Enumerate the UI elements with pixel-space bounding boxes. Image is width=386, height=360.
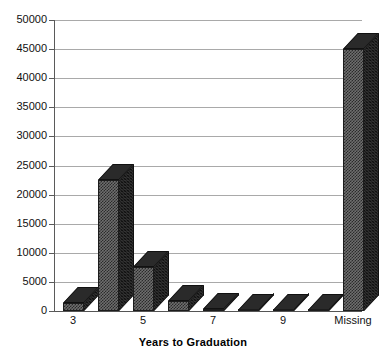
y-tick-mark: [49, 107, 55, 108]
x-axis-labels: 3579Missing: [55, 314, 386, 330]
bar-front-face: [238, 309, 259, 311]
y-tick-label: 15000: [0, 218, 47, 229]
y-tick-label: 10000: [0, 247, 47, 258]
x-axis-title: Years to Graduation: [0, 336, 386, 348]
x-tick-label: 3: [49, 314, 97, 327]
x-tick-label: 7: [189, 314, 237, 327]
bar: [273, 294, 309, 311]
bar-front-face: [98, 180, 119, 311]
y-tick-label: 50000: [0, 14, 47, 25]
y-tick-label: 0: [0, 305, 47, 316]
y-axis-labels: 0500010000150002000025000300003500040000…: [0, 0, 47, 360]
bar: [203, 293, 239, 311]
bar: [238, 294, 274, 311]
y-tick-mark: [49, 78, 55, 79]
bar-front-face: [343, 49, 364, 311]
y-tick-mark: [49, 136, 55, 137]
bar-front-face: [63, 303, 84, 311]
bar: [308, 294, 344, 311]
bar-front-face: [133, 267, 154, 311]
y-tick-label: 30000: [0, 130, 47, 141]
bar: [133, 251, 169, 311]
bar: [168, 285, 204, 311]
bar-top-face: [238, 294, 274, 310]
y-tick-label: 5000: [0, 276, 47, 287]
bar: [343, 33, 379, 311]
y-tick-mark: [49, 166, 55, 167]
y-tick-mark: [49, 20, 55, 21]
bar-front-face: [308, 309, 329, 311]
bar-top-face: [308, 294, 344, 310]
y-tick-mark: [49, 282, 55, 283]
bar-top-face: [203, 293, 239, 309]
bars-layer: [55, 0, 386, 360]
y-tick-mark: [49, 49, 55, 50]
y-tick-label: 20000: [0, 189, 47, 200]
y-tick-label: 40000: [0, 72, 47, 83]
y-tick-mark: [49, 195, 55, 196]
x-tick-label: 5: [119, 314, 167, 327]
bar-side-face: [364, 33, 379, 311]
x-tick-label: 9: [259, 314, 307, 327]
bar-chart: 0500010000150002000025000300003500040000…: [0, 0, 386, 360]
bar-side-face: [119, 164, 134, 311]
x-tick-label: Missing: [329, 314, 377, 327]
bar-top-face: [273, 294, 309, 310]
bar-front-face: [168, 301, 189, 311]
y-tick-mark: [49, 224, 55, 225]
y-tick-label: 45000: [0, 43, 47, 54]
y-tick-mark: [49, 311, 55, 312]
bar-front-face: [203, 309, 224, 311]
y-tick-label: 35000: [0, 101, 47, 112]
bar-front-face: [273, 309, 294, 311]
y-tick-label: 25000: [0, 160, 47, 171]
y-tick-mark: [49, 253, 55, 254]
bar: [63, 287, 99, 311]
bar: [98, 164, 134, 311]
